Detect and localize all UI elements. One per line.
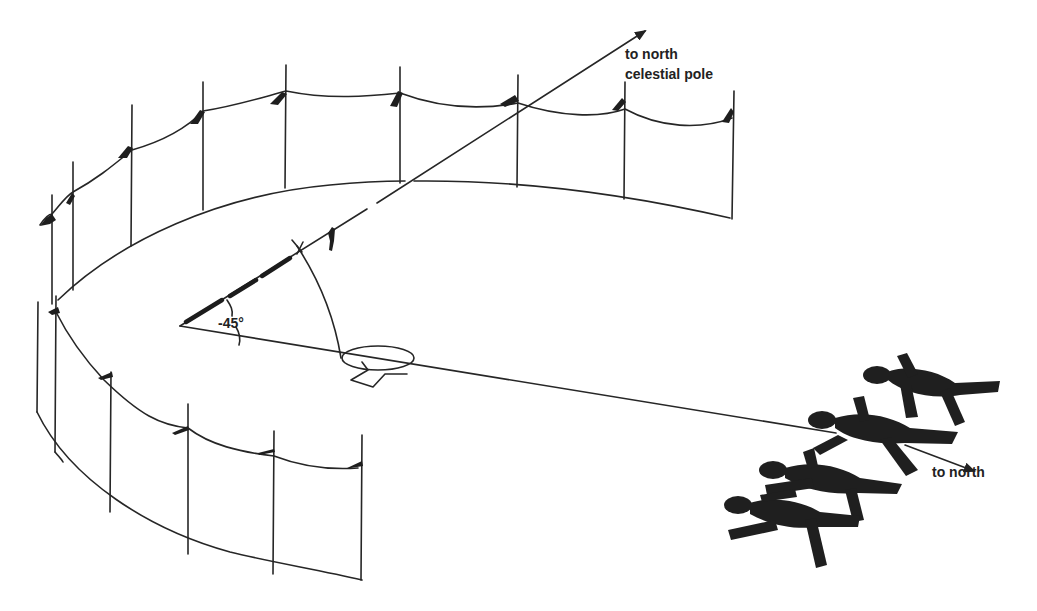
pole-label-line-2: celestial pole — [625, 66, 713, 82]
birds-front-wall — [48, 307, 363, 469]
hopper — [342, 346, 414, 387]
planetarium-diagram: to north celestial pole -45° to north — [0, 0, 1037, 611]
north-label: to north — [932, 464, 985, 480]
angle-label: -45° — [218, 315, 244, 331]
back-wall — [40, 65, 734, 304]
pole-line — [180, 31, 645, 326]
pole-label-line-1: to north — [625, 46, 678, 62]
angle-arc — [227, 240, 341, 358]
front-wall — [37, 296, 362, 580]
bird-1 — [863, 353, 1000, 426]
bird-4 — [724, 489, 860, 568]
bird-silhouettes — [724, 353, 1000, 568]
